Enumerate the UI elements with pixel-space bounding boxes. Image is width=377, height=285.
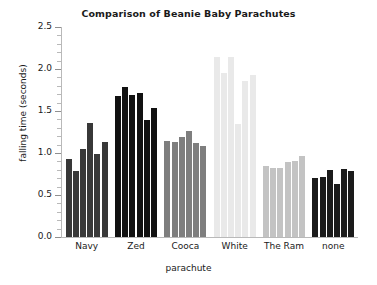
y-tick-minor xyxy=(57,161,61,162)
x-axis-line xyxy=(61,237,358,238)
y-tick-major xyxy=(55,237,61,238)
bar xyxy=(312,178,318,237)
y-tick-minor xyxy=(57,145,61,146)
bar xyxy=(285,162,291,237)
y-tick-major xyxy=(55,69,61,70)
bar xyxy=(144,120,150,237)
bar xyxy=(277,168,283,237)
y-tick-minor xyxy=(57,44,61,45)
y-tick-minor xyxy=(57,86,61,87)
y-tick-minor xyxy=(57,94,61,95)
bar xyxy=(115,96,121,237)
bar xyxy=(221,73,227,237)
y-tick-minor xyxy=(57,136,61,137)
bar xyxy=(102,142,108,237)
y-tick-minor xyxy=(57,103,61,104)
y-tick-minor xyxy=(57,77,61,78)
y-tick-major xyxy=(55,111,61,112)
y-tick-label: 2.0 xyxy=(18,64,52,73)
y-tick-major xyxy=(55,27,61,28)
bar xyxy=(214,57,220,237)
bar xyxy=(200,146,206,237)
y-tick-minor xyxy=(57,35,61,36)
y-tick-minor xyxy=(57,119,61,120)
bar xyxy=(250,75,256,237)
y-tick-minor xyxy=(57,187,61,188)
bar xyxy=(327,170,333,237)
chart-title: Comparison of Beanie Baby Parachutes xyxy=(0,8,377,19)
bar xyxy=(122,87,128,237)
bar xyxy=(292,161,298,237)
plot-area xyxy=(62,27,358,237)
y-tick-minor xyxy=(57,220,61,221)
bar xyxy=(270,168,276,237)
bar xyxy=(164,141,170,237)
bar xyxy=(80,149,86,237)
y-tick-major xyxy=(55,153,61,154)
y-tick-label: 1.5 xyxy=(18,106,52,115)
y-tick-label: 0.5 xyxy=(18,190,52,199)
bar xyxy=(348,171,354,237)
y-tick-major xyxy=(55,195,61,196)
bar xyxy=(172,142,178,237)
y-tick-minor xyxy=(57,212,61,213)
y-tick-minor xyxy=(57,229,61,230)
y-tick-minor xyxy=(57,52,61,53)
y-tick-label: 1.0 xyxy=(18,148,52,157)
bar xyxy=(179,137,185,237)
bar xyxy=(129,95,135,237)
bar-chart: Comparison of Beanie Baby Parachutes fal… xyxy=(0,0,377,285)
bar xyxy=(228,57,234,237)
bar xyxy=(66,159,72,237)
bar xyxy=(137,93,143,237)
bar xyxy=(151,108,157,237)
bar xyxy=(242,81,248,237)
bar xyxy=(299,156,305,237)
x-group-label-none: none xyxy=(297,241,370,251)
bar xyxy=(320,177,326,237)
y-tick-minor xyxy=(57,128,61,129)
bar xyxy=(87,123,93,237)
y-tick-minor xyxy=(57,178,61,179)
bar xyxy=(186,131,192,237)
y-tick-minor xyxy=(57,170,61,171)
y-tick-minor xyxy=(57,61,61,62)
bar xyxy=(73,171,79,237)
bar xyxy=(263,166,269,237)
x-axis-label: parachute xyxy=(0,263,377,273)
y-tick-label: 0.0 xyxy=(18,232,52,241)
bar xyxy=(235,124,241,237)
y-tick-label: 2.5 xyxy=(18,22,52,31)
y-tick-minor xyxy=(57,203,61,204)
bar xyxy=(94,154,100,237)
bar xyxy=(334,184,340,237)
bar xyxy=(193,143,199,237)
bar xyxy=(341,169,347,237)
